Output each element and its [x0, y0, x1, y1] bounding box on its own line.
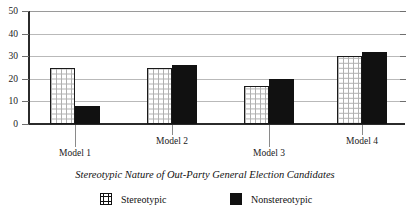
bars-layer [0, 11, 410, 124]
x-axis-title: Stereotypic Nature of Out-Party General … [0, 169, 410, 181]
bar-model-4-nonstereotypic [362, 52, 387, 124]
bar-model-1-nonstereotypic [75, 106, 100, 124]
bar-model-2-nonstereotypic [172, 65, 197, 124]
legend-label-stereotypic: Stereotypic [121, 193, 167, 206]
bar-model-1-stereotypic [50, 68, 75, 125]
legend: Stereotypic Nonstereotypic [0, 189, 410, 205]
bar-group-model-4 [337, 11, 387, 124]
bar-group-model-2 [147, 11, 197, 124]
bar-model-3-stereotypic [244, 86, 269, 124]
bar-group-model-1 [50, 11, 100, 124]
category-label-model-1: Model 1 [40, 148, 110, 159]
legend-item-stereotypic: Stereotypic [100, 189, 167, 204]
bar-model-2-stereotypic [147, 68, 172, 125]
category-label-model-4: Model 4 [327, 136, 397, 147]
bar-chart-figure: 50 40 30 20 10 0 [0, 0, 410, 213]
bar-group-model-3 [244, 11, 294, 124]
legend-swatch-nonstereotypic-icon [230, 193, 242, 205]
category-label-model-3: Model 3 [234, 148, 304, 159]
category-tick-model-4 [362, 125, 363, 135]
plot-area: 50 40 30 20 10 0 [0, 0, 410, 132]
category-tick-model-3 [269, 125, 270, 147]
bar-model-3-nonstereotypic [269, 79, 294, 124]
category-tick-model-2 [172, 125, 173, 135]
legend-label-nonstereotypic: Nonstereotypic [251, 193, 312, 206]
category-tick-model-1 [75, 125, 76, 147]
legend-item-nonstereotypic: Nonstereotypic [230, 189, 312, 204]
legend-swatch-stereotypic-icon [100, 193, 112, 205]
bar-model-4-stereotypic [337, 56, 362, 124]
category-label-model-2: Model 2 [137, 136, 207, 147]
